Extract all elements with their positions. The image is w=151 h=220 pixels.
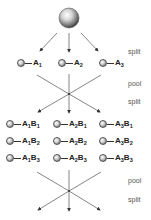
bead-icon	[99, 120, 107, 128]
product-label: A2	[74, 58, 83, 68]
linker	[107, 124, 114, 125]
product-label: A3B2	[115, 136, 133, 146]
linker	[107, 158, 114, 159]
step-label-split-3: split	[128, 196, 140, 203]
product-label: A2B2	[69, 136, 87, 146]
bead-icon	[6, 154, 14, 162]
split-arrows-1	[40, 33, 98, 52]
bead-icon	[99, 137, 107, 145]
linker	[61, 141, 68, 142]
product-label: A1B1	[22, 119, 40, 129]
product-label: A3B3	[115, 153, 133, 163]
resin-bead-icon	[59, 8, 79, 28]
product-A2B2: A2B2	[53, 136, 87, 146]
linker	[14, 141, 21, 142]
product-label: A3B1	[115, 119, 133, 129]
product-A2: A2	[58, 58, 83, 68]
linker	[25, 63, 32, 64]
diagram-canvas	[0, 0, 151, 220]
bead-icon	[53, 120, 61, 128]
step-label-pool-2: pool	[128, 177, 141, 184]
product-A1: A1	[17, 58, 42, 68]
product-A1B3: A1B3	[6, 153, 40, 163]
product-label: A1B3	[22, 153, 40, 163]
linker	[107, 63, 114, 64]
linker	[14, 158, 21, 159]
product-A1B1: A1B1	[6, 119, 40, 129]
product-label: A3	[115, 58, 124, 68]
bead-icon	[53, 154, 61, 162]
product-label: A2B1	[69, 119, 87, 129]
bead-icon	[99, 154, 107, 162]
bead-icon	[58, 59, 66, 67]
linker	[61, 158, 68, 159]
product-label: A1B2	[22, 136, 40, 146]
step-label-split-1: split	[128, 48, 140, 55]
bead-icon	[53, 137, 61, 145]
linker	[107, 141, 114, 142]
product-label: A2B3	[69, 153, 87, 163]
bead-icon	[17, 59, 25, 67]
pool-split-cross-1	[37, 74, 101, 113]
bead-icon	[6, 120, 14, 128]
product-A3B1: A3B1	[99, 119, 133, 129]
product-A1B2: A1B2	[6, 136, 40, 146]
linker	[14, 124, 21, 125]
product-label: A1	[33, 58, 42, 68]
linker	[66, 63, 73, 64]
pool-split-cross-2	[37, 170, 101, 211]
product-A2B3: A2B3	[53, 153, 87, 163]
product-A3B2: A3B2	[99, 136, 133, 146]
product-A2B1: A2B1	[53, 119, 87, 129]
linker	[61, 124, 68, 125]
product-A3: A3	[99, 58, 124, 68]
product-A3B3: A3B3	[99, 153, 133, 163]
step-label-pool-1: pool	[128, 80, 141, 87]
bead-icon	[99, 59, 107, 67]
bead-icon	[6, 137, 14, 145]
step-label-split-2: split	[128, 98, 140, 105]
